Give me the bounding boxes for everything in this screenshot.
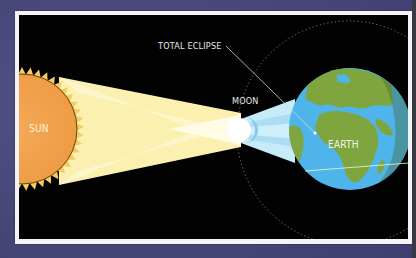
sun-label: SUN	[29, 123, 49, 134]
diagram-frame: TOTAL ECLIPSE MOON SUN EARTH	[15, 11, 413, 244]
total-eclipse-point	[313, 131, 316, 134]
earth	[289, 65, 408, 191]
background-edge	[412, 0, 416, 258]
diagram-panel: TOTAL ECLIPSE MOON SUN EARTH	[19, 15, 408, 239]
total-eclipse-label: TOTAL ECLIPSE	[158, 41, 222, 51]
earth-label: EARTH	[328, 139, 359, 150]
moon-label: MOON	[232, 96, 259, 106]
